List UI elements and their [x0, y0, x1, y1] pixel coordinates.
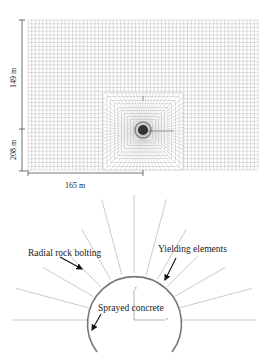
axis-x-label: x	[166, 317, 168, 321]
arrow-concrete	[92, 314, 101, 330]
label-yielding-elements: Yielding elements	[158, 244, 227, 254]
arrow-yielding	[165, 258, 176, 280]
tunnel-panel: y x Radial rock bolting Yielding element…	[12, 195, 256, 352]
tunnel-opening	[138, 125, 148, 135]
arrow-rock-bolting	[60, 257, 82, 269]
mesh-panel: 149 m 208 m 165 m	[9, 20, 258, 190]
figure-canvas: 149 m 208 m 165 m y x Radial rock boltin…	[0, 0, 269, 361]
dim-label-lower: 208 m	[9, 139, 18, 160]
axis-y-label: y	[135, 286, 137, 290]
dim-label-width: 165 m	[65, 181, 86, 190]
label-sprayed-concrete: Sprayed concrete	[98, 303, 164, 313]
dim-label-upper: 149 m	[9, 67, 18, 88]
label-radial-rock-bolting: Radial rock bolting	[28, 248, 102, 258]
